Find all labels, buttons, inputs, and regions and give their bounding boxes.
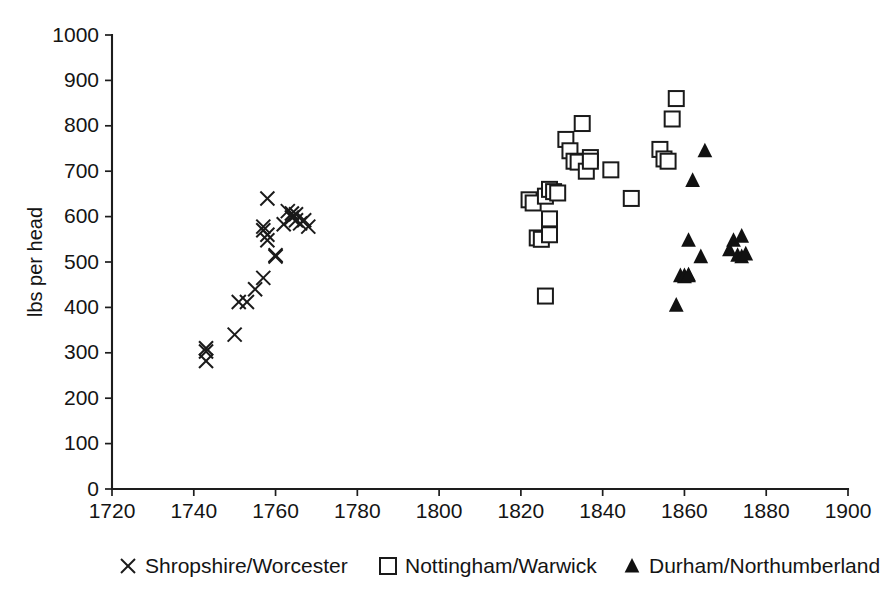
data-point	[199, 341, 213, 355]
x-tick-label: 1900	[825, 499, 872, 522]
chart-legend: Shropshire/WorcesterNottingham/WarwickDu…	[121, 554, 880, 577]
data-point	[624, 191, 639, 206]
series-nottingham-warwick	[522, 91, 684, 303]
x-tick-label: 1780	[334, 499, 381, 522]
legend-label: Shropshire/Worcester	[145, 554, 348, 577]
x-tick-label: 1800	[416, 499, 463, 522]
series-durham-northumberland	[669, 143, 753, 312]
y-tick-label: 400	[64, 295, 99, 318]
data-point	[603, 162, 618, 177]
data-point	[669, 91, 684, 106]
data-point	[583, 154, 598, 169]
legend-label: Nottingham/Warwick	[405, 554, 597, 577]
y-tick-label: 300	[64, 340, 99, 363]
data-point	[575, 116, 590, 131]
chart-data-points	[199, 91, 753, 368]
legend-marker-x-icon	[121, 559, 135, 573]
x-tick-label: 1860	[661, 499, 708, 522]
data-point	[199, 354, 213, 368]
x-tick-label: 1720	[89, 499, 136, 522]
y-axis-title: lbs per head	[24, 207, 46, 317]
y-tick-label: 500	[64, 250, 99, 273]
data-point	[269, 250, 283, 264]
data-point	[685, 172, 700, 187]
x-tick-label: 1880	[743, 499, 790, 522]
legend-item-durham-northumberland: Durham/Northumberland	[625, 554, 880, 577]
data-point	[681, 232, 696, 247]
legend-swatch	[625, 558, 640, 573]
data-point	[661, 154, 676, 169]
x-tick-label: 1840	[579, 499, 626, 522]
x-tick-label: 1760	[252, 499, 299, 522]
legend-marker-square-icon	[380, 558, 396, 574]
data-point	[665, 111, 680, 126]
y-tick-label: 200	[64, 386, 99, 409]
y-tick-label: 600	[64, 204, 99, 227]
chart-canvas: 0100200300400500600700800900100017201740…	[0, 0, 884, 598]
data-point	[693, 249, 708, 264]
series-shropshire-worcester	[199, 191, 315, 368]
legend-item-nottingham-warwick: Nottingham/Warwick	[380, 554, 597, 577]
data-point	[240, 295, 254, 309]
data-point	[260, 191, 274, 205]
y-tick-label: 0	[87, 477, 99, 500]
scatter-chart-figure: 0100200300400500600700800900100017201740…	[0, 0, 884, 598]
y-tick-label: 1000	[52, 23, 99, 46]
y-tick-label: 100	[64, 431, 99, 454]
legend-item-shropshire-worcester: Shropshire/Worcester	[121, 554, 348, 577]
legend-marker-triangle-icon	[625, 558, 640, 573]
chart-axes: 0100200300400500600700800900100017201740…	[24, 23, 871, 523]
data-point	[248, 282, 262, 296]
data-point	[542, 211, 557, 226]
data-point	[256, 271, 270, 285]
data-point	[232, 295, 246, 309]
data-point	[734, 228, 749, 243]
data-point	[698, 143, 713, 158]
data-point	[550, 185, 565, 200]
legend-swatch	[121, 559, 135, 573]
data-point	[538, 289, 553, 304]
legend-label: Durham/Northumberland	[649, 554, 880, 577]
data-point	[228, 328, 242, 342]
data-point	[669, 297, 684, 312]
x-tick-label: 1740	[170, 499, 217, 522]
data-point	[542, 227, 557, 242]
x-tick-label: 1820	[498, 499, 545, 522]
y-tick-label: 900	[64, 68, 99, 91]
legend-swatch	[380, 558, 396, 574]
y-tick-label: 700	[64, 159, 99, 182]
y-tick-label: 800	[64, 113, 99, 136]
